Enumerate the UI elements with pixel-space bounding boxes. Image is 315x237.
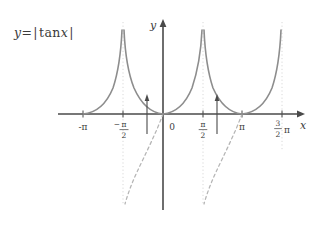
xtick-neg-half-pi-sign: − <box>114 120 120 129</box>
branch-neghalfpi-to-zero <box>124 30 163 114</box>
xtick-label-pi: π <box>239 122 245 132</box>
xtick-label-origin: 0 <box>169 122 175 132</box>
xtick-neg-half-pi-numerator: π <box>122 120 127 129</box>
xtick-half-pi-denominator: 2 <box>201 131 206 140</box>
x-axis-label: x <box>300 119 307 132</box>
xtick-label-three-half-pi: 3 2 π <box>274 119 290 139</box>
solid-abs-tan-branches <box>83 30 281 114</box>
dashed-branch-left <box>125 114 163 204</box>
y-axis-label: y <box>149 19 157 32</box>
xtick-three-half-pi-numerator: 3 <box>276 119 281 128</box>
y-axis-arrowhead <box>160 19 167 27</box>
xtick-neg-half-pi-denominator: 2 <box>122 131 127 140</box>
xtick-three-half-pi-pi-symbol: π <box>284 125 290 135</box>
xtick-half-pi-numerator: π <box>201 120 206 129</box>
branch-zero-to-halfpi <box>163 30 202 114</box>
dashed-branch-right <box>204 114 242 204</box>
xtick-three-half-pi-denominator: 2 <box>276 130 281 139</box>
branch-negpi-to-neghalfpi <box>83 30 122 114</box>
branch-halfpi-to-pi <box>204 30 242 114</box>
branch-pi-to-threehalfpi <box>242 30 281 114</box>
tangent-absolute-value-plot: y x -π − π 2 0 π 2 π 3 2 π <box>0 0 315 237</box>
x-axis-arrowhead <box>297 111 305 118</box>
xtick-label-neg-pi: -π <box>79 122 88 132</box>
dashed-negative-branches <box>125 114 242 204</box>
x-axis <box>58 111 305 118</box>
xtick-label-neg-half-pi: − π 2 <box>114 120 129 140</box>
